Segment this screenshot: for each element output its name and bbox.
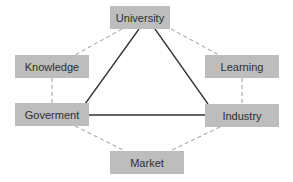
node-knowledge: Knowledge bbox=[15, 55, 89, 78]
edge-government-market bbox=[75, 126, 125, 151]
edge-university-knowledge bbox=[75, 29, 122, 55]
node-learning: Learning bbox=[205, 55, 279, 78]
node-university: University bbox=[110, 6, 170, 29]
diagram-canvas: University Knowledge Learning Goverment … bbox=[0, 0, 293, 182]
edge-university-government bbox=[85, 29, 139, 104]
edge-university-learning bbox=[171, 29, 219, 55]
node-market: Market bbox=[110, 151, 184, 174]
edge-industry-market bbox=[170, 127, 220, 151]
node-government: Goverment bbox=[15, 103, 89, 126]
edge-university-industry bbox=[155, 29, 208, 104]
node-industry: Industry bbox=[205, 104, 279, 127]
